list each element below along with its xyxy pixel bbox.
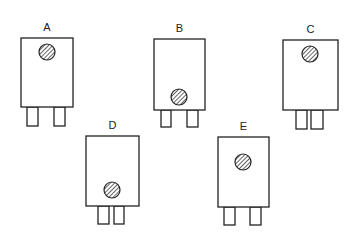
pin-2 [187, 110, 198, 127]
hatched-dot-icon [235, 154, 251, 170]
component-label: C [307, 23, 315, 35]
pin-1 [161, 110, 171, 127]
pin-2 [114, 206, 124, 224]
component-d: D [86, 119, 139, 224]
pin-1 [296, 110, 307, 129]
hatched-dot-icon [39, 44, 55, 60]
pin-2 [54, 107, 65, 126]
diagram-canvas: ABCDE [0, 0, 359, 241]
hatched-dot-icon [302, 46, 318, 62]
component-label: E [240, 120, 247, 132]
hatched-dot-icon [104, 182, 120, 198]
component-label: A [43, 21, 51, 33]
pin-1 [27, 107, 38, 126]
component-a: A [21, 21, 73, 126]
component-label: D [109, 119, 117, 131]
component-body [218, 137, 269, 207]
component-e: E [218, 120, 269, 225]
pin-1 [98, 206, 109, 224]
hatched-dot-icon [171, 89, 187, 105]
pin-1 [224, 207, 235, 225]
pin-2 [311, 110, 323, 129]
pin-2 [250, 207, 261, 225]
component-label: B [176, 22, 183, 34]
component-b: B [154, 22, 205, 127]
component-c: C [283, 23, 338, 129]
